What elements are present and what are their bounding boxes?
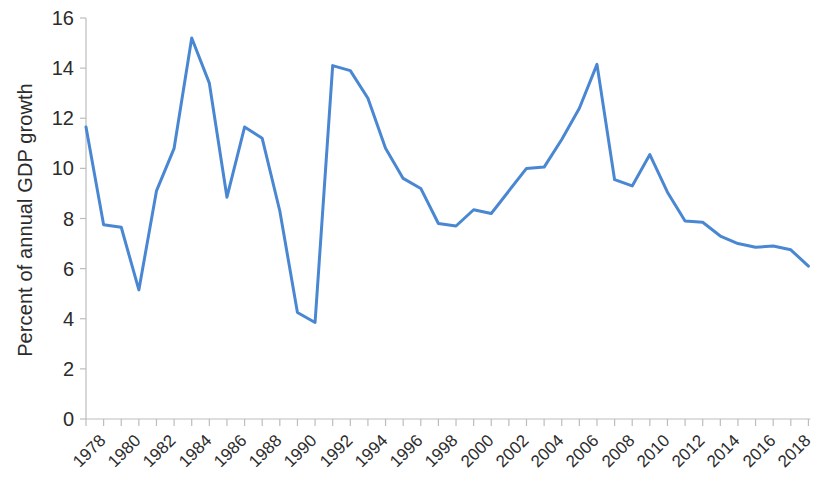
chart-container: Percent of annual GDP growth 02468101214…	[0, 0, 824, 479]
data-series-line	[86, 38, 808, 322]
line-chart-plot	[0, 0, 824, 479]
axis-lines	[86, 18, 810, 419]
